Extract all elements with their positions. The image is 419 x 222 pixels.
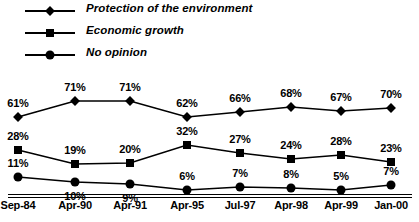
x-axis-tick-label: Apr-91 <box>113 199 147 211</box>
data-point-label: 20% <box>119 143 140 155</box>
square-marker-icon <box>71 160 79 168</box>
data-point-label: 32% <box>176 125 197 137</box>
data-point-label: 8% <box>283 168 299 180</box>
data-point-label: 7% <box>383 165 399 177</box>
chart-root: Protection of the environment Economic g… <box>0 0 419 222</box>
data-point-label: 68% <box>280 87 301 99</box>
square-marker-icon <box>126 159 134 167</box>
square-marker-icon <box>236 149 244 157</box>
data-point-label: 70% <box>380 88 401 100</box>
data-point-label: 11% <box>8 157 29 169</box>
square-marker-icon <box>183 141 191 149</box>
circle-marker-icon <box>14 173 23 182</box>
circle-marker-icon <box>387 181 396 190</box>
x-axis-tick-label: Apr-98 <box>274 199 308 211</box>
data-point-label: 23% <box>380 142 401 154</box>
circle-marker-icon <box>126 180 135 189</box>
data-point-label: 24% <box>280 139 301 151</box>
x-axis-tick-label: Sep-84 <box>1 199 36 211</box>
data-point-label: 27% <box>229 133 250 145</box>
data-point-label: 71% <box>64 81 85 93</box>
circle-marker-icon <box>287 184 296 193</box>
circle-marker-icon <box>236 183 245 192</box>
circle-marker-icon <box>71 178 80 187</box>
data-point-label: 7% <box>232 167 248 179</box>
x-axis-tick-label: Jul-97 <box>225 199 256 211</box>
data-point-label: 67% <box>330 91 351 103</box>
data-point-label: 19% <box>64 144 85 156</box>
data-point-label: 62% <box>176 97 197 109</box>
x-axis-tick-label: Apr-99 <box>324 199 358 211</box>
x-axis-tick-label: Apr-95 <box>170 199 204 211</box>
series-lines <box>0 0 419 222</box>
data-point-label: 61% <box>7 97 28 109</box>
square-marker-icon <box>287 155 295 163</box>
data-point-label: 5% <box>333 170 349 182</box>
data-point-label: 28% <box>7 130 28 142</box>
x-axis-line <box>8 194 412 198</box>
square-marker-icon <box>337 151 345 159</box>
data-point-label: 28% <box>330 135 351 147</box>
plot-area: 61%71%71%62%66%68%67%70%28%19%20%32%27%2… <box>0 0 419 222</box>
square-marker-icon <box>14 146 22 154</box>
x-axis-tick-label: Jan-00 <box>374 199 408 211</box>
data-point-label: 66% <box>229 92 250 104</box>
data-point-label: 6% <box>179 170 195 182</box>
data-point-label: 71% <box>119 81 140 93</box>
x-axis-tick-label: Apr-90 <box>58 199 92 211</box>
